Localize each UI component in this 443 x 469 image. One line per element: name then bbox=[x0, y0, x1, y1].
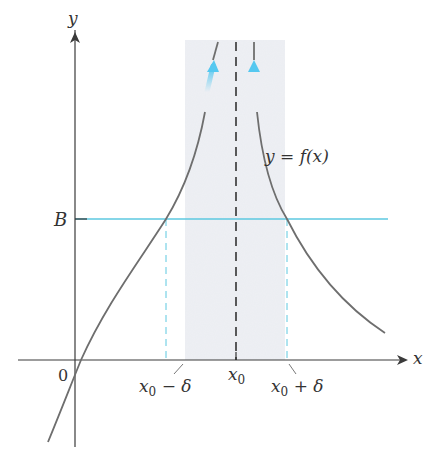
x0-minus-delta-base: x bbox=[139, 376, 149, 396]
x0-minus-delta-tail: − δ bbox=[156, 376, 191, 396]
x0-plus-delta-label: x0 + δ bbox=[271, 376, 324, 399]
x0-plus-delta-tail: + δ bbox=[288, 376, 323, 396]
shaded-region bbox=[185, 40, 285, 360]
x0-plus-delta-leader bbox=[289, 364, 296, 374]
origin-label: 0 bbox=[58, 366, 68, 385]
y-axis-label: y bbox=[67, 8, 78, 28]
b-label: B bbox=[53, 209, 67, 230]
x0-minus-delta-leader bbox=[174, 364, 183, 374]
x0-label-base: x bbox=[228, 364, 238, 384]
x0-minus-delta-label: x0 − δ bbox=[139, 376, 192, 399]
asymptote-diagram: y x 0 B y = f(x) x0 x0 − δ x0 + δ bbox=[0, 0, 443, 469]
x0-label-sub: 0 bbox=[238, 373, 246, 387]
x0-label: x0 bbox=[228, 364, 245, 387]
function-label-text: y = f(x) bbox=[264, 146, 329, 166]
function-label: y = f(x) bbox=[264, 146, 329, 166]
x0-minus-delta-sub: 0 bbox=[149, 385, 157, 399]
x-axis-label: x bbox=[413, 348, 423, 368]
x0-plus-delta-sub: 0 bbox=[281, 385, 289, 399]
x0-plus-delta-base: x bbox=[271, 376, 281, 396]
